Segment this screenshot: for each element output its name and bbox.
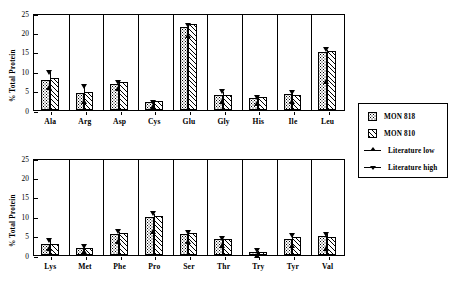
x-tick-label: Val: [310, 262, 345, 271]
literature-low-marker: [115, 86, 121, 91]
chart-figure: % Total Protein 0510152025AlaArgAspCysGl…: [0, 0, 460, 291]
literature-high-marker: [150, 211, 156, 216]
x-tick-mark: [225, 257, 226, 261]
x-tick-mark: [51, 257, 52, 261]
x-tick-mark: [121, 112, 122, 116]
legend-item: MON 818: [359, 108, 447, 125]
x-tick-mark: [155, 257, 156, 261]
legend-swatch-dots: [368, 112, 377, 121]
x-tick-label: Lys: [33, 262, 68, 271]
x-tick-label: Asp: [102, 117, 137, 126]
bar: [50, 78, 59, 110]
x-tick-mark: [225, 112, 226, 116]
x-tick-label: Cys: [137, 117, 172, 126]
literature-low-marker: [81, 249, 87, 254]
literature-high-marker: [46, 238, 52, 243]
literature-low-marker: [323, 246, 329, 251]
group-separator: [173, 15, 174, 110]
legend-triangle-down-icon: [364, 163, 381, 172]
x-tick-mark: [329, 112, 330, 116]
group-separator: [173, 160, 174, 255]
y-tick-label: 0: [9, 252, 29, 261]
literature-low-marker: [46, 246, 52, 251]
y-tick-label: 5: [9, 232, 29, 241]
group-separator: [311, 160, 312, 255]
y-tick-mark: [34, 179, 38, 180]
y-tick-label: 0: [9, 107, 29, 116]
y-tick-label: 15: [9, 193, 29, 202]
group-separator: [277, 160, 278, 255]
x-tick-label: Leu: [310, 117, 345, 126]
x-tick-mark: [190, 112, 191, 116]
literature-low-marker: [150, 229, 156, 234]
literature-range-line: [327, 50, 328, 82]
literature-low-marker: [81, 99, 87, 104]
legend-item: Literature high: [359, 159, 447, 176]
literature-low-marker: [185, 239, 191, 244]
y-tick-mark: [34, 53, 38, 54]
literature-high-marker: [323, 232, 329, 237]
literature-low-marker: [254, 101, 260, 106]
literature-low-marker: [185, 33, 191, 38]
x-tick-label: Pro: [137, 262, 172, 271]
x-tick-mark: [86, 257, 87, 261]
y-tick-mark: [34, 257, 38, 258]
legend-item: Literature low: [359, 142, 447, 159]
group-separator: [242, 160, 243, 255]
plot-area-bottom: [33, 159, 345, 256]
legend-swatch-hatch: [368, 129, 377, 138]
legend-label: MON 818: [384, 113, 415, 121]
x-tick-mark: [190, 257, 191, 261]
y-tick-mark: [34, 73, 38, 74]
x-tick-mark: [86, 112, 87, 116]
x-tick-mark: [329, 257, 330, 261]
legend-item: MON 810: [359, 125, 447, 142]
x-tick-mark: [155, 112, 156, 116]
group-separator: [103, 160, 104, 255]
x-tick-label: Try: [241, 262, 276, 271]
x-tick-mark: [259, 112, 260, 116]
x-tick-mark: [294, 257, 295, 261]
literature-low-marker: [289, 243, 295, 248]
literature-high-marker: [289, 233, 295, 238]
x-tick-label: Ala: [33, 117, 68, 126]
x-tick-mark: [294, 112, 295, 116]
y-tick-label: 25: [9, 10, 29, 19]
group-separator: [138, 15, 139, 110]
group-separator: [242, 15, 243, 110]
group-separator: [311, 15, 312, 110]
literature-low-marker: [150, 104, 156, 109]
literature-high-marker: [185, 23, 191, 28]
x-tick-label: Phe: [102, 262, 137, 271]
legend-label: MON 810: [384, 130, 415, 138]
x-tick-mark: [121, 257, 122, 261]
literature-high-marker: [185, 230, 191, 235]
x-tick-label: His: [241, 117, 276, 126]
bar: [180, 27, 189, 110]
literature-low-marker: [219, 243, 225, 248]
literature-low-marker: [219, 99, 225, 104]
chart-panel-top: % Total Protein 0510152025AlaArgAspCysGl…: [0, 2, 350, 142]
group-separator: [207, 160, 208, 255]
group-separator: [69, 15, 70, 110]
literature-high-marker: [115, 229, 121, 234]
x-tick-label: Gly: [206, 117, 241, 126]
literature-low-marker: [46, 85, 52, 90]
y-tick-mark: [34, 15, 38, 16]
y-tick-label: 10: [9, 68, 29, 77]
literature-high-marker: [115, 80, 121, 85]
legend-triangle-up-icon: [364, 146, 381, 155]
group-separator: [277, 15, 278, 110]
literature-high-marker: [219, 236, 225, 241]
chart-panel-bottom: % Total Protein 0510152025LysMetPheProSe…: [0, 147, 350, 289]
group-separator: [103, 15, 104, 110]
y-tick-label: 20: [9, 174, 29, 183]
literature-low-marker: [323, 79, 329, 84]
bar: [154, 216, 163, 255]
y-tick-mark: [34, 92, 38, 93]
group-separator: [69, 160, 70, 255]
literature-high-marker: [254, 95, 260, 100]
literature-low-marker: [115, 239, 121, 244]
x-tick-label: Met: [68, 262, 103, 271]
y-tick-label: 10: [9, 213, 29, 222]
